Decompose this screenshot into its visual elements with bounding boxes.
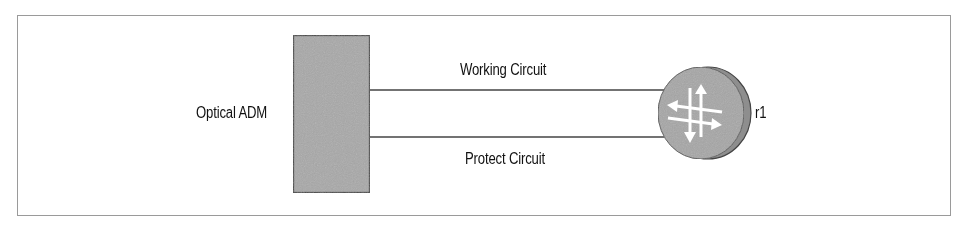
working-circuit-label: Working Circuit [460,61,546,79]
optical-adm-node [294,36,370,193]
diagram-canvas [0,0,962,228]
optical-adm-label: Optical ADM [196,104,267,122]
protect-circuit-label: Protect Circuit [465,150,545,168]
router-r1-node [658,67,751,159]
router-r1-label: r1 [755,104,766,122]
